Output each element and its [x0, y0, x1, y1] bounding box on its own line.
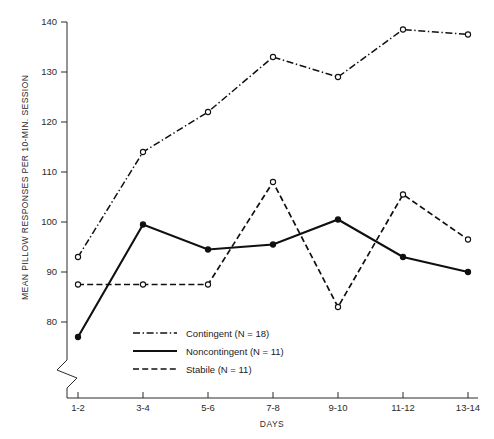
legend-label: Contingent (N = 18) [186, 328, 269, 339]
y-axis-group: 8090100110120130140 MEAN PILLOW RESPONSE… [20, 16, 77, 398]
data-point [140, 282, 145, 287]
data-point [335, 304, 340, 309]
legend-label: Noncontingent (N = 11) [186, 346, 284, 357]
y-tick-group [61, 22, 67, 322]
x-tick-label: 13-14 [456, 402, 480, 413]
data-point [75, 254, 80, 259]
legend-label: Stabile (N = 11) [186, 364, 252, 375]
data-point [400, 192, 405, 197]
y-tick-label: 100 [41, 216, 57, 227]
data-point [465, 237, 470, 242]
x-tick-group [78, 392, 468, 398]
y-tick-label: 120 [41, 116, 57, 127]
y-tick-label: 130 [41, 66, 57, 77]
x-tick-label: 11-12 [391, 402, 415, 413]
data-point [335, 217, 340, 222]
data-point [140, 222, 145, 227]
y-tick-label: 80 [46, 316, 57, 327]
y-axis-title: MEAN PILLOW RESPONSES PER 10-MIN. SESSIO… [20, 75, 30, 300]
data-point [75, 282, 80, 287]
data-point [270, 54, 275, 59]
data-point [205, 247, 210, 252]
y-axis-break-zigzag [57, 360, 77, 398]
x-tick-label: 9-10 [328, 402, 347, 413]
line-chart-canvas: 8090100110120130140 MEAN PILLOW RESPONSE… [0, 0, 494, 439]
x-tick-label: 7-8 [266, 402, 280, 413]
data-point [205, 282, 210, 287]
data-point [465, 269, 470, 274]
legend: Contingent (N = 18)Noncontingent (N = 11… [133, 328, 284, 375]
y-tick-label: 110 [42, 166, 57, 177]
series-line [78, 30, 468, 258]
x-tick-label-group: 1-23-45-67-89-1011-1213-14 [71, 402, 480, 413]
x-tick-label: 1-2 [71, 402, 85, 413]
x-tick-label: 3-4 [136, 402, 150, 413]
x-tick-label: 5-6 [201, 402, 215, 413]
data-point [270, 179, 275, 184]
data-point [400, 27, 405, 32]
series-line [78, 220, 468, 338]
data-point [75, 334, 80, 339]
data-point [140, 149, 145, 154]
x-axis-group: 1-23-45-67-89-1011-1213-14 DAYS [67, 392, 480, 429]
y-tick-label: 90 [46, 266, 57, 277]
data-point [335, 74, 340, 79]
data-point [205, 109, 210, 114]
y-tick-label: 140 [41, 16, 57, 27]
chart-figure: 8090100110120130140 MEAN PILLOW RESPONSE… [0, 0, 494, 439]
data-point [465, 32, 470, 37]
y-tick-label-group: 8090100110120130140 [41, 16, 57, 327]
x-axis-title: DAYS [260, 419, 284, 429]
data-point [400, 254, 405, 259]
data-point [270, 242, 275, 247]
series-group [75, 27, 470, 340]
